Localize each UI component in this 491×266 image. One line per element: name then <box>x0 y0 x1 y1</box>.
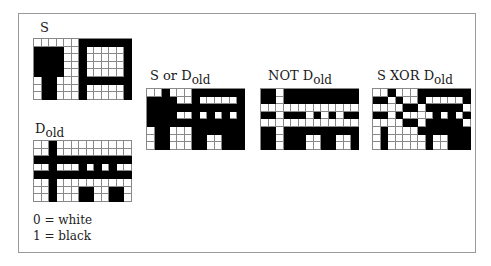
pixel-cell <box>155 135 163 143</box>
pixel-cell <box>162 127 170 135</box>
pixel-cell <box>102 179 110 187</box>
pixel-cell <box>351 142 359 150</box>
pixel-cell <box>291 142 299 150</box>
pixel-cell <box>215 104 223 112</box>
pixel-cell <box>79 62 87 70</box>
pixel-cell <box>306 119 314 127</box>
pixel-cell <box>433 89 441 97</box>
pixel-cell <box>87 171 95 179</box>
pixel-cell <box>117 47 125 55</box>
pixel-cell <box>162 142 170 150</box>
pixel-cell <box>34 54 42 62</box>
pixel-cell <box>456 104 464 112</box>
pixel-cell <box>403 97 411 105</box>
pixel-cell <box>102 171 110 179</box>
pixel-cell <box>72 156 80 164</box>
pixel-cell <box>102 39 110 47</box>
pixel-cell <box>102 194 110 202</box>
pixel-cell <box>269 97 277 105</box>
pixel-cell <box>57 171 65 179</box>
pixel-cell <box>34 39 42 47</box>
pixel-cell <box>373 135 381 143</box>
pixel-cell <box>237 127 245 135</box>
pixel-cell <box>109 187 117 195</box>
pixel-cell <box>72 187 80 195</box>
pixel-cell <box>329 119 337 127</box>
pixel-cell <box>72 39 80 47</box>
pixel-cell <box>185 127 193 135</box>
pixel-cell <box>155 127 163 135</box>
pixel-cell <box>463 142 471 150</box>
pixel-cell <box>351 89 359 97</box>
pixel-cell <box>109 77 117 85</box>
pixel-cell <box>79 156 87 164</box>
pixel-cell <box>64 69 72 77</box>
pixel-cell <box>72 171 80 179</box>
pixel-cell <box>329 127 337 135</box>
pixel-cell <box>200 112 208 120</box>
pixel-cell <box>109 47 117 55</box>
pixel-cell <box>94 194 102 202</box>
pixel-cell <box>94 179 102 187</box>
pixel-cell <box>373 142 381 150</box>
pixel-cell <box>57 156 65 164</box>
pixel-cell <box>185 119 193 127</box>
pixel-cell <box>87 47 95 55</box>
pixel-cell <box>207 142 215 150</box>
pixel-cell <box>299 89 307 97</box>
pixel-cell <box>463 89 471 97</box>
pixel-cell <box>170 135 178 143</box>
pixel-cell <box>42 54 50 62</box>
pixel-cell <box>117 39 125 47</box>
legend-black: 1 = black <box>33 228 92 244</box>
pixel-cell <box>109 85 117 93</box>
pixel-cell <box>79 85 87 93</box>
pixel-cell <box>336 119 344 127</box>
pixel-cell <box>411 97 419 105</box>
label-s-or-d-old: S or Dold <box>150 69 210 83</box>
pixel-cell <box>124 141 132 149</box>
label-s-xor-d-old: S XOR Dold <box>377 69 453 83</box>
pixel-cell <box>102 92 110 100</box>
pixel-cell <box>34 149 42 157</box>
pixel-cell <box>117 54 125 62</box>
pixel-cell <box>94 187 102 195</box>
pixel-cell <box>411 127 419 135</box>
pixel-cell <box>124 187 132 195</box>
pixel-cell <box>192 135 200 143</box>
pixel-cell <box>215 89 223 97</box>
pixel-cell <box>418 97 426 105</box>
pixel-cell <box>426 135 434 143</box>
pixel-cell <box>441 135 449 143</box>
pixel-cell <box>237 97 245 105</box>
pixel-cell <box>463 112 471 120</box>
pixel-cell <box>64 141 72 149</box>
pixel-cell <box>117 141 125 149</box>
pixel-cell <box>207 104 215 112</box>
pixel-cell <box>230 89 238 97</box>
pixel-cell <box>49 156 57 164</box>
pixel-cell <box>426 142 434 150</box>
pixel-cell <box>49 39 57 47</box>
pixel-cell <box>448 127 456 135</box>
grid-d-old <box>33 140 132 202</box>
pixel-cell <box>441 127 449 135</box>
pixel-cell <box>418 135 426 143</box>
pixel-cell <box>418 119 426 127</box>
label-d-old: Dold <box>35 122 64 136</box>
pixel-cell <box>147 127 155 135</box>
pixel-cell <box>230 97 238 105</box>
pixel-cell <box>426 104 434 112</box>
pixel-cell <box>72 141 80 149</box>
pixel-cell <box>94 141 102 149</box>
pixel-cell <box>42 69 50 77</box>
pixel-cell <box>344 104 352 112</box>
pixel-cell <box>344 142 352 150</box>
pixel-cell <box>94 149 102 157</box>
pixel-cell <box>124 171 132 179</box>
pixel-cell <box>109 54 117 62</box>
pixel-cell <box>403 104 411 112</box>
pixel-cell <box>269 104 277 112</box>
pixel-cell <box>448 112 456 120</box>
pixel-cell <box>336 135 344 143</box>
